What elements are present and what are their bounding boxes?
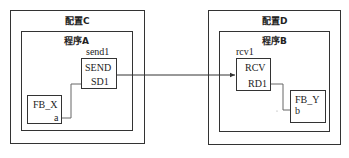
rcv-instance-label: rcv1 [236,47,254,57]
send-port-sd1: SD1 [91,77,109,87]
fb-x-port-a: a [54,113,58,123]
fb-y-block[interactable]: FB_Y b [290,90,326,123]
fb-x-type-label: FB_X [33,100,57,110]
send-block[interactable]: SEND SD1 [81,58,117,89]
send-instance-label: send1 [86,47,109,57]
rcv-type-label: RCV [245,63,266,73]
rcv-block[interactable]: RCV RD1 [236,58,271,91]
fb-y-type-label: FB_Y [295,95,319,105]
configuration-d-title: 配置D [262,16,287,26]
program-a-title: 程序A [64,36,89,46]
program-b-title: 程序B [262,36,287,46]
rcv-port-rd1: RD1 [248,79,267,89]
fb-x-block[interactable]: FB_X a [27,95,62,124]
fb-y-port-b: b [295,106,300,116]
configuration-c-title: 配置C [65,16,90,26]
send-type-label: SEND [85,63,111,73]
